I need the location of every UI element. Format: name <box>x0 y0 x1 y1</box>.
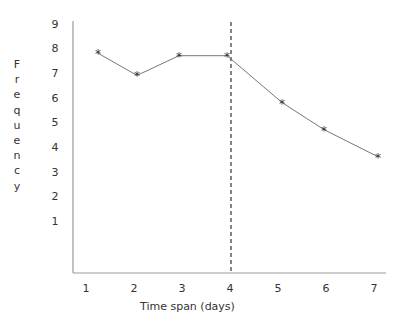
y-axis-title-letter: n <box>14 148 21 163</box>
y-tick-label: 7 <box>52 67 59 80</box>
x-tick-label: 1 <box>83 282 90 295</box>
y-tick-label: 5 <box>52 116 59 129</box>
y-axis-title-letter: F <box>14 57 20 72</box>
x-tick-label: 2 <box>131 282 138 295</box>
x-tick-label: 7 <box>371 282 378 295</box>
y-tick-label: 4 <box>52 141 59 154</box>
data-point-marker: * <box>321 124 327 138</box>
y-tick-label: 8 <box>52 42 59 55</box>
data-point-marker: * <box>95 47 101 61</box>
y-axis-title-letter: r <box>15 72 20 87</box>
y-axis-title: Frequency <box>10 57 24 194</box>
data-point-marker: * <box>279 97 285 111</box>
y-axis-title-letter: u <box>14 118 21 133</box>
y-axis-title-letter: e <box>14 133 21 148</box>
x-axis-title: Time span (days) <box>0 300 396 313</box>
x-tick-labels: 1234567 <box>83 282 378 295</box>
y-tick-label: 1 <box>52 215 59 228</box>
data-point-marker: * <box>134 69 140 83</box>
y-tick-label: 9 <box>52 18 59 31</box>
y-axis-title-letter: c <box>14 163 20 178</box>
y-axis-title-letter: q <box>14 103 21 118</box>
y-tick-label: 3 <box>52 166 59 179</box>
y-axis-title-letter: y <box>14 179 21 194</box>
y-tick-labels: 123456789 <box>52 18 59 228</box>
y-tick-label: 6 <box>52 92 59 105</box>
x-tick-label: 4 <box>227 282 234 295</box>
y-axis-title-letter: e <box>14 87 21 102</box>
data-point-marker: * <box>224 50 230 64</box>
data-point-marker: * <box>176 50 182 64</box>
line-chart: 123456789 1234567 ******* <box>0 0 396 326</box>
data-point-marker: * <box>375 151 381 165</box>
x-tick-label: 5 <box>275 282 282 295</box>
y-tick-label: 2 <box>52 190 59 203</box>
x-tick-label: 6 <box>323 282 330 295</box>
x-tick-label: 3 <box>179 282 186 295</box>
series-line <box>98 53 378 157</box>
